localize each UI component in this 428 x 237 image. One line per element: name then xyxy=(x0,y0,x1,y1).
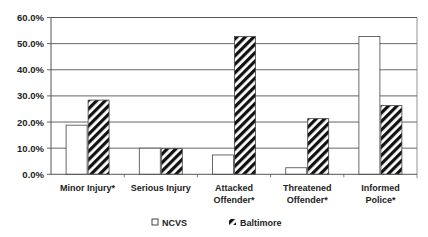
x-category-label: Offender* xyxy=(213,195,255,205)
bar-baltimore-4 xyxy=(381,106,402,175)
x-category-label: Informed xyxy=(361,183,400,193)
bar-baltimore-1 xyxy=(161,149,182,175)
bar-ncvs-3 xyxy=(286,168,307,175)
y-tick-label: 30.0% xyxy=(17,90,44,101)
x-category-label: Offender* xyxy=(287,195,329,205)
x-category-label: Threatened xyxy=(283,183,332,193)
x-category-label: Police* xyxy=(365,195,396,205)
x-category-label: Minor Injury* xyxy=(60,183,115,193)
y-tick-label: 60.0% xyxy=(17,12,44,23)
x-axis-labels: Minor Injury*Serious InjuryAttackedOffen… xyxy=(60,183,400,205)
legend-swatch-baltimore xyxy=(229,219,236,225)
x-category-label: Attacked xyxy=(215,183,253,193)
bar-ncvs-1 xyxy=(139,148,160,174)
bar-chart: 0.0%10.0%20.0%30.0%40.0%50.0%60.0% Minor… xyxy=(0,0,428,237)
y-tick-label: 40.0% xyxy=(17,64,44,75)
bar-ncvs-4 xyxy=(359,37,380,175)
y-tick-label: 0.0% xyxy=(22,169,44,180)
y-tick-label: 50.0% xyxy=(17,38,44,49)
bar-baltimore-2 xyxy=(235,37,256,175)
legend-label-baltimore: Baltimore xyxy=(240,218,282,228)
y-tick-label: 10.0% xyxy=(17,143,44,154)
bar-baltimore-0 xyxy=(88,100,109,174)
legend: NCVS Baltimore xyxy=(152,218,282,228)
x-category-label: Serious Injury xyxy=(131,183,191,193)
bar-ncvs-2 xyxy=(213,155,234,174)
y-axis-ticks: 0.0%10.0%20.0%30.0%40.0%50.0%60.0% xyxy=(17,12,51,180)
bar-baltimore-3 xyxy=(308,119,329,175)
legend-label-ncvs: NCVS xyxy=(162,218,187,228)
y-tick-label: 20.0% xyxy=(17,117,44,128)
legend-swatch-ncvs xyxy=(152,219,158,225)
bar-ncvs-0 xyxy=(66,125,87,174)
bars xyxy=(66,37,402,175)
